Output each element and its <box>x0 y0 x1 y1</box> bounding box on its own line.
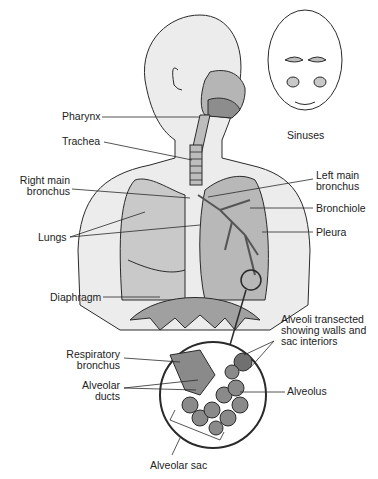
label-sinuses: Sinuses <box>287 130 324 141</box>
label-alveoli-transected: Alveoli transectedshowing walls andsac i… <box>281 314 366 347</box>
label-alveolar-ducts: Alveolarducts <box>50 380 120 402</box>
label-respiratory-bronchus: Respiratorybronchus <box>50 349 120 371</box>
label-pharynx: Pharynx <box>62 111 101 122</box>
left-lung <box>200 176 269 300</box>
face <box>268 10 342 110</box>
label-right-main-bronchus: Right mainbronchus <box>14 175 70 197</box>
label-trachea: Trachea <box>62 136 100 147</box>
label-alveolar-sac: Alveolar sac <box>150 460 207 471</box>
label-pleura: Pleura <box>316 227 346 238</box>
label-diaphragm: Diaphragm <box>50 292 101 303</box>
label-bronchiole: Bronchiole <box>316 203 366 214</box>
respiratory-diagram: Pharynx Trachea Sinuses Right mainbronch… <box>0 0 378 479</box>
label-left-main-bronchus: Left mainbronchus <box>316 170 359 192</box>
label-alveolus: Alveolus <box>287 386 327 397</box>
label-lungs: Lungs <box>38 232 67 243</box>
